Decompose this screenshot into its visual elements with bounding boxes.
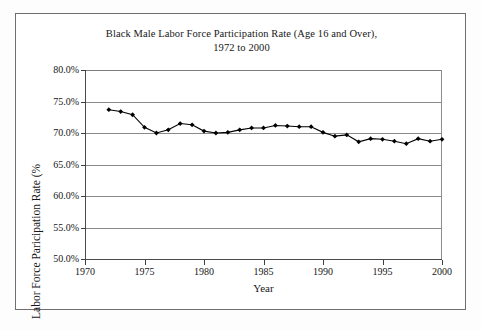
y-tick-label: 65.0% <box>33 160 79 170</box>
gridline-y <box>86 70 441 71</box>
plot-area <box>85 70 442 259</box>
y-tick-mark <box>81 133 86 134</box>
x-tick-label: 2000 <box>419 266 465 278</box>
y-tick-mark <box>81 165 86 166</box>
y-tick-label: 75.0% <box>33 97 79 107</box>
chart-title-line2: 1972 to 2000 <box>16 41 467 55</box>
x-tick-mark <box>323 260 324 265</box>
x-tick-mark <box>264 260 265 265</box>
y-tick-mark <box>81 70 86 71</box>
gridline-y <box>86 228 441 229</box>
y-tick-label: 70.0% <box>33 128 79 138</box>
chart-frame: Black Male Labor Force Participation Rat… <box>15 13 466 310</box>
gridline-y <box>86 133 441 134</box>
x-tick-mark <box>85 260 86 265</box>
gridline-y <box>86 165 441 166</box>
x-tick-label: 1970 <box>62 266 108 278</box>
x-tick-mark <box>442 260 443 265</box>
gridline-y <box>86 196 441 197</box>
chart-page: Black Male Labor Force Participation Rat… <box>0 0 481 330</box>
y-tick-label: 80.0% <box>33 65 79 75</box>
x-tick-label: 1990 <box>300 266 346 278</box>
x-tick-label: 1995 <box>360 266 406 278</box>
x-tick-label: 1985 <box>241 266 287 278</box>
y-tick-mark <box>81 102 86 103</box>
gridline-y <box>86 102 441 103</box>
y-tick-mark <box>81 196 86 197</box>
y-tick-label: 50.0% <box>33 254 79 264</box>
x-tick-label: 1980 <box>181 266 227 278</box>
y-axis-tick-labels: 50.0%55.0%60.0%65.0%70.0%75.0%80.0% <box>29 70 79 259</box>
chart-title: Black Male Labor Force Participation Rat… <box>16 27 467 55</box>
x-tick-label: 1975 <box>122 266 168 278</box>
x-axis-title: Year <box>85 282 442 294</box>
chart-title-line1: Black Male Labor Force Participation Rat… <box>106 28 377 39</box>
y-tick-mark <box>81 228 86 229</box>
y-tick-label: 55.0% <box>33 223 79 233</box>
x-tick-mark <box>145 260 146 265</box>
x-tick-mark <box>383 260 384 265</box>
x-tick-mark <box>204 260 205 265</box>
y-tick-label: 60.0% <box>33 191 79 201</box>
